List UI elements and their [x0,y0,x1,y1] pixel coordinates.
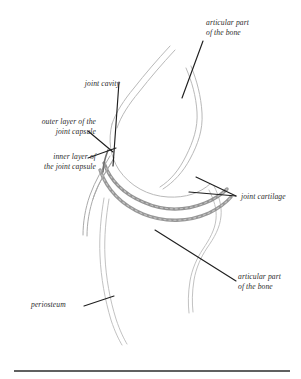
label-articular-part-top: articular partof the bone [206,18,249,38]
upper-bone-left-contour [112,46,170,124]
upper-bone-left-contour-inner [117,50,175,128]
upper-bone-right-contour [160,68,197,187]
lower-bone-shaft-left-inner [105,199,127,344]
label-outer-layer-joint-capsule: outer layer of thejoint capsule [16,117,96,137]
bone-outlines [110,46,210,197]
label-inner-layer-line2: the joint capsule [44,162,96,171]
label-articular-part-top-line1: articular part [206,18,249,27]
label-inner-layer-line1: inner layer of [53,152,96,161]
leader-periosteum [84,296,114,306]
label-joint-cavity: joint cavity [58,79,120,89]
lower-bone-outlines [100,186,221,345]
label-inner-layer-joint-capsule: inner layer ofthe joint capsule [16,152,96,172]
condyle-outline [110,124,210,197]
label-articular-part-bottom: articular partof the bone [238,272,281,292]
label-articular-part-bottom-line2: of the bone [238,282,273,291]
label-articular-part-bottom-line1: articular part [238,272,281,281]
leader-articular-part-top [182,41,203,98]
label-outer-layer-line1: outer layer of the [42,117,96,126]
label-outer-layer-line2: joint capsule [56,127,96,136]
lower-bone-shaft-left-outer [100,198,122,345]
label-periosteum: periosteum [31,300,66,310]
joint-anatomy-illustration [0,0,301,379]
label-articular-part-top-line2: of the bone [206,28,241,37]
label-joint-cartilage: joint cartilage [241,192,286,202]
figure-canvas: articular partof the bone joint cavity o… [0,0,301,379]
